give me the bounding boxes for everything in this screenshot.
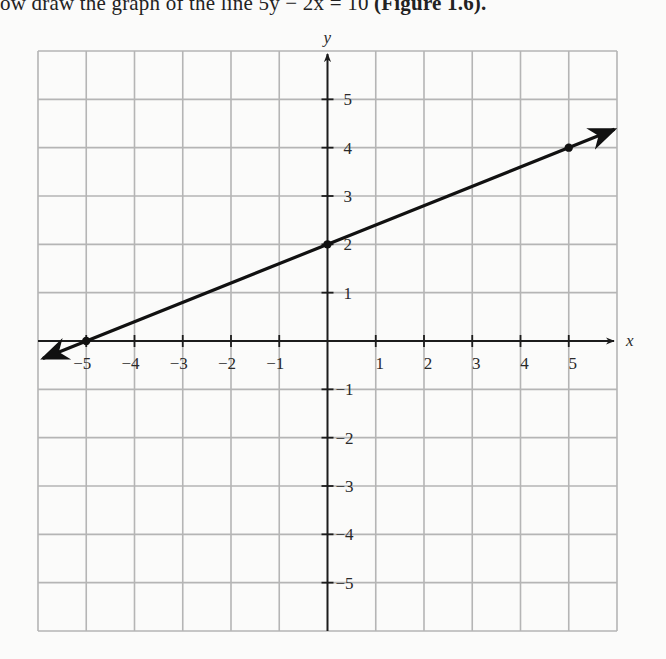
y-tick-label: 5 <box>344 90 353 109</box>
y-tick-label: 3 <box>344 187 353 206</box>
y-axis-label: y <box>322 28 332 47</box>
x-tick-label: 5 <box>569 354 578 373</box>
coordinate-plane-chart: xy−5−4−3−2−112345−5−4−3−2−112345 <box>0 0 666 659</box>
x-tick-label: −4 <box>121 354 140 373</box>
x-tick-label: 3 <box>472 354 481 373</box>
y-tick-label: −5 <box>336 574 354 593</box>
x-tick-label: −3 <box>170 354 188 373</box>
y-tick-label: −2 <box>336 429 354 448</box>
marked-point <box>82 337 90 345</box>
x-tick-label: −5 <box>73 354 91 373</box>
x-tick-label: 1 <box>376 354 385 373</box>
x-tick-label: −2 <box>218 354 236 373</box>
y-tick-label: 1 <box>344 284 353 303</box>
marked-point <box>565 143 573 151</box>
axes <box>38 54 614 631</box>
x-tick-label: −1 <box>266 354 284 373</box>
y-tick-label: −3 <box>336 477 354 496</box>
marked-point <box>323 240 331 248</box>
y-tick-label: −1 <box>336 380 354 399</box>
y-tick-label: 4 <box>344 139 353 158</box>
x-tick-label: 4 <box>520 354 529 373</box>
y-tick-label: −4 <box>336 525 355 544</box>
x-tick-label: 2 <box>424 354 433 373</box>
x-axis-label: x <box>625 331 634 350</box>
tick-labels: xy−5−4−3−2−112345−5−4−3−2−112345 <box>73 28 634 593</box>
